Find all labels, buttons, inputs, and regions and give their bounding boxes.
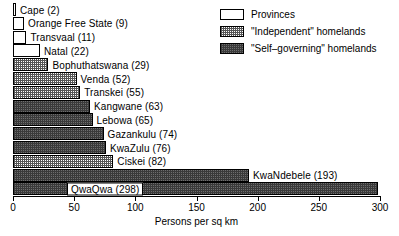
bar-label-ciskei: Ciskei (82) [113, 156, 166, 167]
bar-label-transkei: Transkei (55) [80, 87, 144, 98]
bar-lebowa[interactable] [13, 113, 93, 126]
legend-swatch-provinces-icon [220, 9, 244, 20]
bar-label-natal: Natal (22) [40, 45, 89, 56]
population-density-bar-chart: Cape (2)Orange Free State (9)Transvaal (… [0, 0, 399, 236]
bar-label-venda: Venda (52) [77, 73, 131, 84]
legend-item-independent[interactable]: "Independent" homelands [220, 25, 377, 38]
x-tick-label-200: 200 [249, 202, 266, 213]
bar-ciskei[interactable] [13, 155, 113, 168]
legend-label-provinces: Provinces [251, 9, 295, 20]
bar-venda[interactable] [13, 72, 77, 85]
bar-label-orange-free-state: Orange Free State (9) [24, 18, 128, 29]
x-tick-label-50: 50 [69, 202, 80, 213]
bar-natal[interactable] [13, 44, 40, 57]
bar-label-kwazulu: KwaZulu (76) [106, 142, 171, 153]
bar-kangwane[interactable] [13, 100, 90, 113]
x-tick-50 [74, 196, 75, 201]
bar-gazankulu[interactable] [13, 127, 104, 140]
bar-transkei[interactable] [13, 86, 80, 99]
bar-bophuthatswana[interactable] [13, 58, 48, 71]
legend-swatch-independent-icon [220, 26, 244, 37]
x-tick-150 [197, 196, 198, 201]
x-tick-250 [319, 196, 320, 201]
bar-label-gazankulu: Gazankulu (74) [104, 128, 178, 139]
legend-swatch-selfgov-icon [220, 43, 244, 54]
bar-transvaal[interactable] [13, 31, 26, 44]
legend-item-provinces[interactable]: Provinces [220, 8, 377, 21]
bar-kwazulu[interactable] [13, 141, 106, 154]
legend-label-independent: "Independent" homelands [251, 26, 365, 37]
x-tick-label-300: 300 [372, 202, 389, 213]
bar-label-bophuthatswana: Bophuthatswana (29) [48, 59, 149, 70]
legend-label-selfgov: "Self–governing" homelands [251, 43, 377, 54]
x-tick-200 [258, 196, 259, 201]
bar-label-cape: Cape (2) [16, 4, 60, 15]
x-axis-label: Persons per sq km [13, 216, 380, 227]
bar-label-kangwane: Kangwane (63) [90, 101, 163, 112]
bar-kwandebele[interactable] [13, 169, 249, 182]
x-tick-label-0: 0 [10, 202, 16, 213]
x-tick-0 [13, 196, 14, 201]
x-tick-300 [380, 196, 381, 201]
bar-label-qwaqwa: QwaQwa (298) [67, 182, 143, 195]
bar-label-transvaal: Transvaal (11) [26, 32, 95, 43]
x-tick-label-100: 100 [127, 202, 144, 213]
x-tick-label-250: 250 [310, 202, 327, 213]
chart-legend: Provinces"Independent" homelands"Self–go… [220, 8, 377, 59]
legend-item-selfgov[interactable]: "Self–governing" homelands [220, 42, 377, 55]
bar-label-kwandebele: KwaNdebele (193) [249, 170, 337, 181]
bar-label-lebowa: Lebowa (65) [93, 114, 154, 125]
bar-orange-free-state[interactable] [13, 17, 24, 30]
x-tick-100 [135, 196, 136, 201]
x-tick-label-150: 150 [188, 202, 205, 213]
